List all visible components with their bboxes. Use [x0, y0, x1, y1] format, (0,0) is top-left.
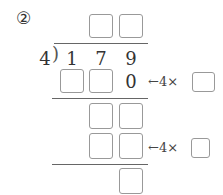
step1-ones-digit: 0 — [119, 73, 143, 91]
remainder-box[interactable] — [119, 168, 143, 194]
step2-tens-box[interactable] — [89, 103, 113, 129]
dividend-digit-hundreds: 1 — [60, 50, 84, 68]
step2-ones-box[interactable] — [119, 103, 143, 129]
subtraction-line-2 — [52, 164, 148, 165]
step1-tens-box[interactable] — [89, 69, 113, 93]
division-bar — [54, 43, 148, 44]
quotient-ones-box[interactable] — [119, 14, 143, 38]
step1-hint: ←4× — [148, 75, 178, 89]
step1-hundreds-box[interactable] — [60, 69, 84, 93]
dividend-digit-tens: 7 — [89, 50, 113, 68]
problem-number: ② — [16, 8, 31, 28]
arrow-left-icon: ← — [148, 140, 159, 155]
step2-multiplier-box[interactable] — [191, 138, 210, 158]
step1-multiplier-box[interactable] — [192, 72, 215, 92]
step2-product-ones-box[interactable] — [119, 133, 143, 159]
step2-hint: ←4× — [148, 141, 178, 155]
division-bracket: ) — [52, 43, 59, 65]
hint-text: 4× — [159, 74, 178, 89]
subtraction-line-1 — [52, 98, 148, 99]
arrow-left-icon: ← — [148, 74, 159, 89]
quotient-tens-box[interactable] — [89, 14, 113, 38]
hint-text: 4× — [159, 140, 178, 155]
dividend-digit-ones: 9 — [119, 50, 143, 68]
step2-product-tens-box[interactable] — [89, 133, 113, 159]
